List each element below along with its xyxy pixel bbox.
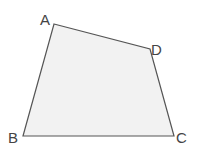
vertex-label-a: A xyxy=(40,11,50,28)
vertex-label-d: D xyxy=(151,41,162,58)
vertex-label-c: C xyxy=(176,129,187,146)
quadrilateral-diagram: A D C B xyxy=(0,0,199,162)
vertex-label-b: B xyxy=(8,129,18,146)
